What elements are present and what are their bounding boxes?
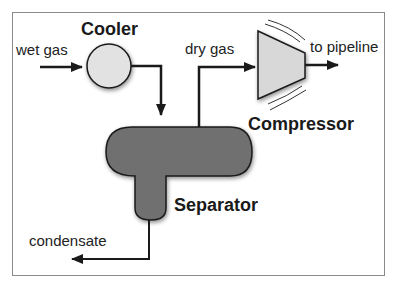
cooler-label: Cooler bbox=[81, 19, 138, 39]
condensate-label: condensate bbox=[29, 232, 107, 249]
dry-gas-label: dry gas bbox=[185, 40, 234, 57]
wet-gas-label: wet gas bbox=[15, 41, 68, 58]
compressor-label: Compressor bbox=[248, 114, 354, 134]
cooler-icon bbox=[87, 44, 131, 88]
to-pipeline-label: to pipeline bbox=[310, 38, 378, 55]
separator-label: Separator bbox=[174, 195, 258, 215]
process-diagram: wet gas Cooler Separator dry gas Compres… bbox=[0, 0, 394, 286]
